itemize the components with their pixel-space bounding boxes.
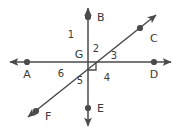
angle-label-3: 3 — [111, 50, 117, 61]
point-e-dot — [85, 105, 91, 111]
angle-label-2: 2 — [93, 43, 99, 54]
geometry-diagram-canvas: A B C D E F G 1 2 3 4 5 6 — [0, 0, 181, 134]
angle-label-5: 5 — [77, 75, 83, 86]
point-label-f: F — [45, 110, 51, 123]
angle-label-4: 4 — [104, 72, 110, 83]
vertex-label-g: G — [75, 48, 84, 61]
point-label-b: B — [97, 11, 105, 24]
point-label-e: E — [97, 102, 104, 115]
point-a-dot — [24, 59, 30, 65]
point-d-dot — [151, 59, 157, 65]
diagonal-line — [28, 15, 156, 117]
point-b-dot — [85, 14, 91, 20]
point-label-d: D — [150, 68, 158, 81]
point-f-dot — [33, 108, 39, 114]
point-label-c: C — [150, 32, 158, 45]
angle-label-1: 1 — [68, 29, 74, 40]
point-c-dot — [137, 25, 143, 31]
angle-label-6: 6 — [58, 68, 64, 79]
point-label-a: A — [23, 68, 31, 81]
geometry-figure: A B C D E F G 1 2 3 4 5 6 — [0, 0, 181, 134]
